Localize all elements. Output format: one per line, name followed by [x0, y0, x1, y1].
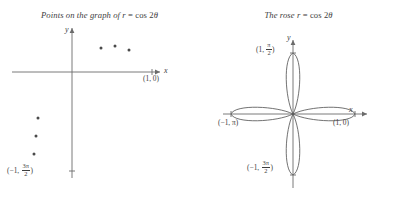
rose-label-n-tail: )	[272, 45, 274, 54]
rose-label-n-frac-denominator: 2	[266, 50, 271, 57]
rose-y-axis-arrow	[291, 40, 296, 45]
data-point-6	[33, 153, 36, 156]
rose-label-1-pi-over-2: (1, π2)	[256, 42, 275, 56]
rose-panel: The rose r = cos 2θ x	[199, 0, 398, 200]
figure-root: Points on the graph of r = cos 2θ	[0, 0, 398, 200]
data-point-1	[100, 47, 103, 50]
rose-label-s-fraction: 3π2	[262, 160, 270, 174]
points-label-lead: (−1,	[7, 166, 21, 175]
points-label-tail: )	[30, 166, 32, 175]
data-point-4	[37, 117, 40, 120]
points-x-axis-label: x	[164, 67, 168, 75]
rose-label-1-0: (1, 0)	[333, 119, 349, 127]
rose-label-n-fraction: π2	[266, 42, 271, 56]
points-y-axis-arrow	[70, 28, 75, 33]
data-point-5	[35, 135, 38, 138]
rose-x-axis-arrow	[362, 112, 367, 117]
rose-label-neg1-3pi-over-2: (−1, 3π2)	[247, 160, 273, 174]
points-label-frac-denominator: 2	[22, 171, 30, 178]
rose-label-s-tail: )	[270, 163, 272, 172]
points-tick-group	[69, 69, 152, 171]
points-panel: Points on the graph of r = cos 2θ	[0, 0, 199, 200]
data-point-2	[114, 45, 117, 48]
rose-label-neg1-pi: (−1, π)	[218, 119, 238, 127]
data-point-3	[128, 49, 131, 52]
points-label-neg1-3pi-over-2: (−1, 3π2)	[7, 163, 33, 177]
points-label-1-0: (1, 0)	[143, 75, 159, 83]
rose-label-s-lead: (−1,	[247, 163, 261, 172]
points-label-fraction: 3π2	[22, 163, 30, 177]
rose-x-axis-label: x	[349, 106, 353, 114]
rose-label-n-lead: (1,	[256, 45, 266, 54]
rose-label-s-frac-denominator: 2	[262, 168, 270, 175]
rose-y-axis-label: y	[287, 34, 291, 42]
points-scatter-group	[33, 45, 131, 156]
rose-plot-canvas	[199, 0, 398, 200]
points-y-axis-label: y	[65, 26, 69, 34]
